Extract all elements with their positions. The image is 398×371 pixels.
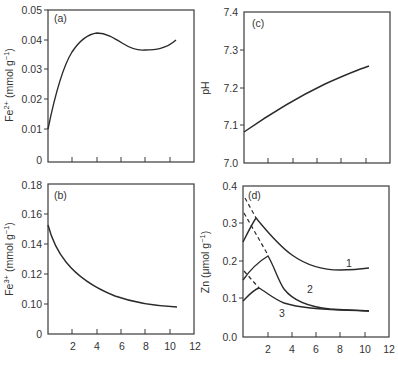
c-ytick-3: 7.3 xyxy=(223,44,238,56)
b-xtick-12: 12 xyxy=(189,340,201,352)
figure: 0 0.01 0.02 0.03 0.04 0.05 (a) Fe2+ (mmo… xyxy=(0,0,398,371)
panel-c-label: (c) xyxy=(252,17,264,29)
a-ytick-0: 0 xyxy=(36,154,42,166)
d-ytick-1: 0.1 xyxy=(222,292,237,304)
d-ytick-2: 0.2 xyxy=(222,255,237,267)
b-xtick-4: 4 xyxy=(94,340,100,352)
panel-a-label: (a) xyxy=(54,12,67,24)
b-ytick-1: 0.10 xyxy=(22,298,43,310)
c-ylabel: pH xyxy=(199,81,211,94)
d-xtick-4: 4 xyxy=(289,343,295,355)
panel-b-label: (b) xyxy=(54,189,67,201)
a-ytick-5: 0.05 xyxy=(22,4,43,16)
c-ytick-0: 7.0 xyxy=(223,157,238,169)
d-xtick-12: 12 xyxy=(383,343,395,355)
b-ylabel: Fe3+ (mmol g−1) xyxy=(2,222,15,296)
d-ytick-0: 0.0 xyxy=(222,331,237,343)
d-dashed-3 xyxy=(244,271,259,288)
panel-b-frame xyxy=(48,184,194,334)
b-xtick-2: 2 xyxy=(70,340,76,352)
d-curve-label-1: 1 xyxy=(346,257,352,269)
d-dashed-1 xyxy=(245,198,256,218)
panel-d-label: (d) xyxy=(248,189,261,201)
d-curve-label-2: 2 xyxy=(307,283,313,295)
d-ytick-3: 0.3 xyxy=(222,217,237,229)
panel-b: 0 0.10 0.12 0.14 0.16 0.18 2 4 6 8 10 12… xyxy=(2,179,201,352)
b-ytick-0: 0 xyxy=(36,328,42,340)
panel-d-frame xyxy=(243,186,389,337)
c-ytick-1: 7.1 xyxy=(223,119,238,131)
d-xtick-10: 10 xyxy=(359,343,371,355)
d-xtick-6: 6 xyxy=(313,343,319,355)
panel-a-frame xyxy=(48,10,194,162)
a-curve-fe2 xyxy=(48,33,176,129)
panel-d: 0.0 0.1 0.2 0.3 0.4 2 4 6 8 10 12 (d) Zn… xyxy=(198,180,395,355)
a-ytick-1: 0.01 xyxy=(22,123,43,135)
d-ylabel: Zn (μmol g−1) xyxy=(198,231,211,293)
c-curve-ph xyxy=(244,66,369,132)
a-ytick-2: 0.02 xyxy=(22,93,43,105)
b-ytick-4: 0.16 xyxy=(22,208,43,220)
a-ytick-3: 0.03 xyxy=(22,63,43,75)
panel-c: 7.0 7.1 7.2 7.3 7.4 (c) pH xyxy=(199,6,390,169)
d-ytick-4: 0.4 xyxy=(222,180,237,192)
c-ytick-4: 7.4 xyxy=(223,6,238,18)
a-ytick-4: 0.04 xyxy=(22,34,43,46)
b-ytick-5: 0.18 xyxy=(22,179,43,191)
d-xtick-2: 2 xyxy=(265,343,271,355)
b-ytick-3: 0.14 xyxy=(22,238,43,250)
d-curve-label-3: 3 xyxy=(279,307,285,319)
b-xtick-6: 6 xyxy=(119,340,125,352)
c-ytick-2: 7.2 xyxy=(223,82,238,94)
a-ylabel: Fe2+ (mmol g−1) xyxy=(2,48,15,122)
d-curve-3 xyxy=(243,288,369,311)
b-curve-fe3 xyxy=(48,225,177,307)
b-xtick-8: 8 xyxy=(143,340,149,352)
panel-a: 0 0.01 0.02 0.03 0.04 0.05 (a) Fe2+ (mmo… xyxy=(2,4,194,166)
b-xtick-10: 10 xyxy=(164,340,176,352)
b-ytick-2: 0.12 xyxy=(22,268,43,280)
d-xtick-8: 8 xyxy=(337,343,343,355)
